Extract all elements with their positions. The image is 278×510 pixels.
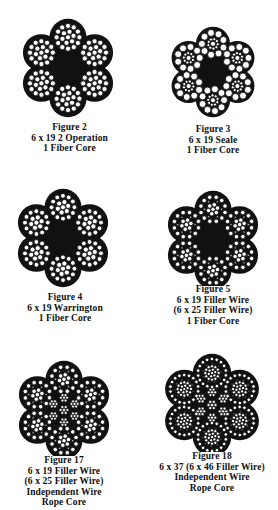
construction-line: 6 x 19 Warrington [0,303,130,314]
figure-label: Figure 18 [139,451,278,462]
figure-label: Figure 4 [0,292,130,303]
figure-label: Figure 17 [0,455,128,466]
figure-label: Figure 5 [139,284,278,295]
alt-construction-line: (6 x 25 Filler Wire) [139,305,278,316]
core-line: Independent Wire [139,472,278,483]
rope-cross-section-6x25-filler-wire-iwrc [0,340,139,456]
construction-line: 6 x 37 (6 x 46 Filler Wire) [139,462,278,473]
rope-cross-section-6x25-filler-wire-fiber-core [139,170,278,286]
alt-construction-line: (6 x 25 Filler Wire) [0,476,128,487]
figure-4: Figure 4 6 x 19 Warrington 1 Fiber Core [0,170,139,340]
figure-caption: Figure 4 6 x 19 Warrington 1 Fiber Core [0,292,130,324]
core-line: 1 Fiber Core [0,313,130,324]
figure-label: Figure 3 [139,124,278,135]
figure-caption: Figure 2 6 x 19 2 Operation 1 Fiber Core [0,122,139,154]
construction-line: 6 x 19 Seale [139,135,278,146]
rope-cross-section-6x19-warrington-fiber-core [0,170,139,292]
figure-caption: Figure 5 6 x 19 Filler Wire (6 x 25 Fill… [139,284,278,326]
figure-3: Figure 3 6 x 19 Seale 1 Fiber Core [139,0,278,170]
core-line: Independent Wire [0,487,128,498]
figure-17: Figure 17 6 x 19 Filler Wire (6 x 25 Fil… [0,340,139,510]
core-line-2: Rope Core [139,483,278,494]
construction-line: 6 x 19 Filler Wire [0,466,128,477]
core-line-2: Rope Core [0,497,128,508]
figure-label: Figure 2 [0,122,139,133]
construction-line: 6 x 19 Filler Wire [139,295,278,306]
figure-caption: Figure 17 6 x 19 Filler Wire (6 x 25 Fil… [0,455,128,508]
core-line: 1 Fiber Core [139,145,278,156]
figure-caption: Figure 3 6 x 19 Seale 1 Fiber Core [139,124,278,156]
figure-18: Figure 18 6 x 37 (6 x 46 Filler Wire) In… [139,340,278,510]
rope-cross-section-6x19-fiber-core [0,0,139,120]
figure-5: Figure 5 6 x 19 Filler Wire (6 x 25 Fill… [139,170,278,340]
rope-cross-section-6x19-seale-fiber-core [139,0,278,122]
rope-cross-section-6x46-filler-wire-iwrc [139,340,278,452]
core-line: 1 Fiber Core [139,316,278,327]
core-line: 1 Fiber Core [0,143,139,154]
figure-caption: Figure 18 6 x 37 (6 x 46 Filler Wire) In… [139,451,278,493]
construction-line: 6 x 19 2 Operation [0,133,139,144]
figure-2: Figure 2 6 x 19 2 Operation 1 Fiber Core [0,0,139,170]
